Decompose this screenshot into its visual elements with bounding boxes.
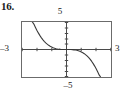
problem-number-label: 16. xyxy=(1,0,14,13)
y-max-label: 5 xyxy=(58,6,63,16)
plot-canvas xyxy=(22,22,111,77)
y-min-label: –5 xyxy=(64,80,73,90)
figure-container: 16. xyxy=(0,0,121,95)
x-max-label: 3 xyxy=(115,43,120,53)
plot-viewing-window xyxy=(21,21,112,78)
x-min-label: –3 xyxy=(0,43,9,53)
